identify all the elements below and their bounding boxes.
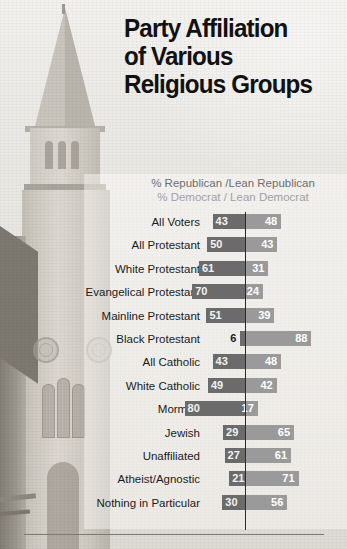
bar-value-republican: 27 [228, 449, 240, 462]
chart-row-bars: 8017 [0, 401, 347, 417]
bar-republican: 29 [223, 425, 245, 440]
bar-value-republican: 49 [211, 379, 223, 392]
chart-row-bars: 4348 [0, 354, 347, 370]
bar-republican: 50 [207, 237, 245, 252]
bar-value-republican: 6 [230, 332, 236, 345]
bar-value-democrat: 43 [261, 238, 273, 251]
bar-democrat: 43 [245, 237, 277, 252]
bar-republican: 70 [192, 284, 245, 299]
chart-row: Nothing in Particular3056 [0, 493, 347, 516]
bar-democrat: 48 [245, 214, 281, 229]
bar-value-republican: 61 [202, 262, 214, 275]
bar-republican: 27 [225, 448, 245, 463]
bar-republican: 21 [229, 471, 245, 486]
title-line-1: Party Affiliation [124, 14, 327, 42]
chart-row: Mainline Protestant5139 [0, 306, 347, 329]
bar-value-democrat: 65 [278, 426, 290, 439]
bar-value-democrat: 71 [282, 472, 294, 485]
legend-item-democrat: % Democrat / Lean Democrat [124, 190, 342, 204]
chart-legend: % Republican /Lean Republican % Democrat… [124, 176, 342, 204]
bar-democrat: 24 [245, 284, 263, 299]
bar-republican: 43 [213, 354, 245, 369]
chart-row-bars: 4942 [0, 378, 347, 394]
bar-democrat: 56 [245, 495, 287, 510]
bar-value-republican: 50 [210, 238, 222, 251]
bar-democrat: 88 [245, 331, 311, 346]
chart-row-bars: 3056 [0, 495, 347, 511]
bar-value-democrat: 48 [265, 355, 277, 368]
chart-row: White Catholic4942 [0, 376, 347, 399]
bar-value-democrat: 31 [252, 262, 264, 275]
bar-democrat: 61 [245, 448, 291, 463]
chart-row: Mormon8017 [0, 399, 347, 422]
legend-item-republican: % Republican /Lean Republican [124, 176, 342, 190]
bar-value-democrat: 48 [265, 215, 277, 228]
bar-republican: 51 [206, 308, 245, 323]
bar-democrat: 17 [245, 401, 258, 416]
bar-value-republican: 29 [226, 426, 238, 439]
bar-republican: 80 [185, 401, 245, 416]
chart-row-bars: 688 [0, 331, 347, 347]
bottom-divider-rule [24, 534, 324, 535]
steeple-finial [62, 4, 65, 14]
belfry-window [45, 141, 53, 169]
bar-value-democrat: 56 [271, 496, 283, 509]
bar-value-democrat: 17 [242, 402, 254, 415]
chart-row: All Protestant5043 [0, 235, 347, 258]
chart-rows: All Voters4348All Protestant5043White Pr… [0, 212, 347, 516]
bar-value-republican: 43 [216, 355, 228, 368]
chart-row-bars: 2761 [0, 448, 347, 464]
chart-row: Black Protestant688 [0, 329, 347, 352]
belfry-window [71, 141, 79, 169]
bar-value-democrat: 61 [275, 449, 287, 462]
bar-democrat: 71 [245, 471, 299, 486]
chart-row-bars: 5043 [0, 237, 347, 253]
bar-republican: 61 [199, 261, 245, 276]
bar-republican: 49 [208, 378, 245, 393]
bar-democrat: 31 [245, 261, 268, 276]
bar-democrat: 39 [245, 308, 274, 323]
chart-center-divider [245, 212, 246, 530]
chart-row-bars: 6131 [0, 261, 347, 277]
chart-row-bars: 4348 [0, 214, 347, 230]
bar-value-republican: 70 [195, 285, 207, 298]
bar-value-republican: 21 [232, 472, 244, 485]
chart-row: Atheist/Agnostic2171 [0, 469, 347, 492]
chart-row: All Catholic4348 [0, 352, 347, 375]
bar-democrat: 48 [245, 354, 281, 369]
bar-republican: 30 [222, 495, 245, 510]
chart-row-bars: 7024 [0, 284, 347, 300]
chart-row-bars: 2171 [0, 471, 347, 487]
title-line-3: Religious Groups [124, 70, 327, 98]
bar-value-democrat: 39 [258, 309, 270, 322]
bar-value-democrat: 88 [295, 332, 307, 345]
infographic-poster: Party Affiliation of Various Religious G… [0, 0, 347, 549]
bar-value-republican: 80 [188, 402, 200, 415]
chart-row: All Voters4348 [0, 212, 347, 235]
chart-row: White Protestant6131 [0, 259, 347, 282]
chart-row-bars: 2965 [0, 425, 347, 441]
chart-row: Unaffiliated2761 [0, 446, 347, 469]
bar-republican: 43 [213, 214, 245, 229]
title-line-2: of Various [124, 42, 327, 70]
bar-democrat: 65 [245, 425, 294, 440]
page-title: Party Affiliation of Various Religious G… [124, 14, 342, 98]
bar-value-democrat: 24 [247, 285, 259, 298]
bar-value-republican: 43 [216, 215, 228, 228]
bar-value-republican: 51 [209, 309, 221, 322]
steeple-spire-shadow [65, 8, 96, 130]
bar-democrat: 42 [245, 378, 277, 393]
belfry-window [58, 141, 66, 169]
chart-row: Evangelical Protestant7024 [0, 282, 347, 305]
chart-row: Jewish2965 [0, 423, 347, 446]
bar-value-democrat: 42 [260, 379, 272, 392]
bar-value-republican: 30 [225, 496, 237, 509]
chart-row-bars: 5139 [0, 308, 347, 324]
